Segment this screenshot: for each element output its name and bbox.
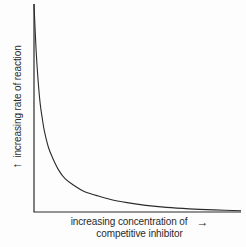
plot-svg (33, 4, 241, 213)
x-axis-label-line-one-wrap: increasing concentration of→ (33, 216, 246, 228)
enzyme-inhibition-chart: ↑ increasing rate of reaction increasing… (0, 0, 246, 247)
x-axis-label-line-two: competitive inhibitor (33, 228, 246, 240)
up-arrow-icon: ↑ (11, 162, 23, 168)
y-axis-label-inner: ↑ increasing rate of reaction (11, 45, 23, 168)
x-axis-label: increasing concentration of→ competitive… (33, 216, 246, 240)
plot-area (33, 4, 241, 213)
y-axis-label-text: increasing rate of reaction (11, 45, 22, 157)
right-arrow-icon: → (196, 216, 208, 228)
y-axis-label: ↑ increasing rate of reaction (0, 0, 33, 213)
x-axis-label-line-one: increasing concentration of (71, 216, 188, 227)
decay-curve (34, 4, 241, 211)
